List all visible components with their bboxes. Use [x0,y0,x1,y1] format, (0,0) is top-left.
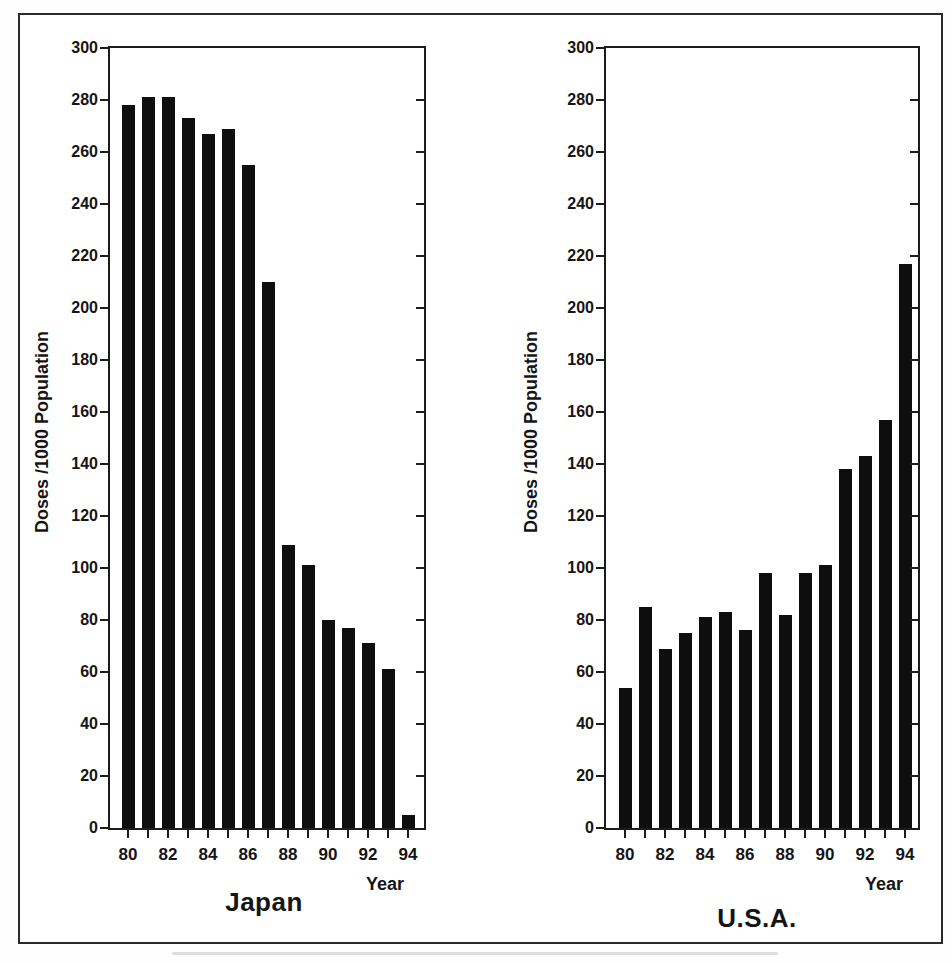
usa-y-tick-label: 160 [548,402,594,422]
usa-bar-82 [659,649,672,828]
japan-y-tick [100,775,110,777]
usa-y-tick-label: 40 [548,714,594,734]
usa-x-tick-label-88: 88 [765,845,805,865]
japan-y-tick-label: 120 [52,506,98,526]
usa-bar-93 [879,420,892,828]
usa-y-tick-label: 80 [548,610,594,630]
usa-bar-86 [739,630,752,828]
japan-x-tick-label-88: 88 [268,845,308,865]
usa-x-tick [824,828,826,838]
japan-bar-92 [362,643,375,828]
usa-y-tick [596,255,606,257]
japan-right-tick [416,775,424,777]
japan-bar-84 [202,134,215,828]
usa-right-tick [910,203,918,205]
usa-x-tick [684,828,686,838]
usa-x-tick [804,828,806,838]
japan-x-tick [347,828,349,838]
japan-x-tick [367,828,369,838]
usa-x-tick [724,828,726,838]
japan-y-tick-label: 40 [52,714,98,734]
japan-y-tick-label: 20 [52,766,98,786]
usa-right-tick [910,411,918,413]
usa-y-tick-label: 260 [548,142,594,162]
usa-y-tick-label: 280 [548,90,594,110]
japan-right-tick [416,411,424,413]
japan-x-axis-label: Year [366,874,404,895]
japan-x-tick-label-90: 90 [308,845,348,865]
scan-artifact-line [172,952,778,955]
usa-right-tick [910,151,918,153]
japan-right-tick [416,463,424,465]
japan-y-tick [100,567,110,569]
usa-y-tick-label: 100 [548,558,594,578]
usa-x-tick [644,828,646,838]
japan-y-tick [100,359,110,361]
usa-y-tick [596,775,606,777]
japan-x-tick-label-80: 80 [108,845,148,865]
japan-y-tick-label: 300 [52,38,98,58]
japan-y-tick-label: 240 [52,194,98,214]
japan-y-tick [100,411,110,413]
usa-x-tick [744,828,746,838]
usa-y-tick-label: 220 [548,246,594,266]
japan-right-tick [416,307,424,309]
usa-x-tick [704,828,706,838]
japan-x-tick [247,828,249,838]
usa-right-tick [910,567,918,569]
usa-y-tick [596,567,606,569]
usa-bar-91 [839,469,852,828]
japan-x-tick-label-84: 84 [188,845,228,865]
usa-y-tick [596,203,606,205]
japan-y-tick [100,99,110,101]
japan-x-tick [327,828,329,838]
usa-y-tick-label: 300 [548,38,594,58]
japan-y-tick-label: 140 [52,454,98,474]
japan-y-tick [100,515,110,517]
japan-bar-83 [182,118,195,828]
japan-y-tick [100,203,110,205]
usa-y-tick [596,723,606,725]
japan-y-tick-label: 100 [52,558,98,578]
japan-y-tick-label: 260 [52,142,98,162]
usa-x-tick [844,828,846,838]
usa-right-tick [910,515,918,517]
usa-bar-90 [819,565,832,828]
usa-y-tick [596,99,606,101]
japan-x-tick-label-86: 86 [228,845,268,865]
usa-right-tick [910,619,918,621]
usa-x-tick-label-86: 86 [725,845,765,865]
usa-bar-88 [779,615,792,828]
japan-x-tick [167,828,169,838]
usa-y-tick [596,307,606,309]
japan-x-tick [307,828,309,838]
japan-x-tick [147,828,149,838]
japan-y-tick [100,255,110,257]
usa-y-tick-label: 180 [548,350,594,370]
japan-y-tick-label: 200 [52,298,98,318]
japan-y-tick [100,47,110,49]
usa-title: U.S.A. [717,903,797,934]
usa-x-tick [884,828,886,838]
usa-y-tick [596,463,606,465]
japan-bar-93 [382,669,395,828]
japan-x-tick [387,828,389,838]
usa-y-tick-label: 240 [548,194,594,214]
japan-bar-86 [242,165,255,828]
japan-x-tick [227,828,229,838]
japan-y-tick-label: 280 [52,90,98,110]
japan-y-tick-label: 80 [52,610,98,630]
usa-x-tick-label-90: 90 [805,845,845,865]
usa-x-tick [784,828,786,838]
japan-bar-88 [282,545,295,828]
japan-title: Japan [225,887,303,918]
usa-x-tick [664,828,666,838]
japan-right-tick [416,671,424,673]
usa-x-tick-label-94: 94 [885,845,925,865]
usa-bar-84 [699,617,712,828]
usa-y-axis-label: Doses /1000 Population [521,331,542,533]
usa-x-tick-label-92: 92 [845,845,885,865]
usa-x-tick [864,828,866,838]
japan-right-tick [416,359,424,361]
usa-right-tick [910,359,918,361]
